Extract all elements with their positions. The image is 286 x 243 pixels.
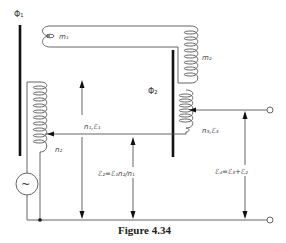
tap-arrow-n1 — [47, 132, 54, 137]
label-phi2: Φ₂ — [148, 87, 158, 96]
output-terminal-top — [267, 107, 273, 113]
coil-m2 — [178, 26, 198, 83]
output-terminal-bottom — [267, 217, 273, 223]
label-phi1: Φ₁ — [14, 10, 24, 19]
arrow-e1-head — [80, 80, 85, 88]
arrow-e4-head-down — [243, 211, 248, 219]
arrow-e2-head-up — [131, 137, 136, 145]
arrow-e2-head-down — [131, 211, 136, 219]
label-m2: m₂ — [202, 54, 212, 62]
coil-n1-n2 — [27, 82, 47, 220]
coil-n3 — [45, 90, 193, 134]
arrow-e1-down-head — [80, 211, 85, 219]
label-m1: m₁ — [59, 33, 69, 41]
junction-dot — [38, 218, 42, 222]
arrow-e4-head-up — [243, 111, 248, 119]
label-n1-e1: n₁,ℰ₁ — [84, 123, 101, 131]
label-n2: n₂ — [55, 146, 62, 154]
ac-source-icon: ~ — [21, 178, 30, 191]
transformer-diagram: Φ₁ Φ₂ m₁ m₂ n₃,ℰ₃ n₂ n₁,ℰ₁ ~ — [0, 0, 286, 243]
label-e4-eq: ℰ₄=ℰ₃+ℰ₂ — [215, 168, 248, 176]
label-e2-eq: ℰ₂=ℰ₁n₂/n₁ — [98, 170, 135, 178]
label-n3-e3: n₃,ℰ₃ — [202, 127, 219, 135]
figure-caption: Figure 4.34 — [118, 224, 171, 236]
